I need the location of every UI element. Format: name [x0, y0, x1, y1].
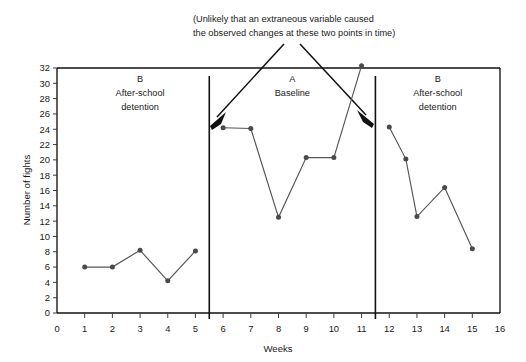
- data-point-marker: [359, 63, 364, 68]
- annotation-line-1: (Unlikely that an extraneous variable ca…: [193, 14, 374, 24]
- y-tick-label: 4: [45, 277, 50, 288]
- phase-labels: BAfter-schooldetentionABaselineBAfter-sc…: [116, 74, 463, 112]
- data-point-marker: [276, 215, 281, 220]
- x-tick-label: 2: [110, 323, 115, 334]
- data-point-marker: [82, 265, 87, 270]
- x-axis-ticks: 012345678910111213141516: [54, 313, 505, 334]
- data-point-marker: [304, 155, 309, 160]
- phase-name-line-2: detention: [121, 102, 159, 112]
- x-tick-label: 16: [495, 323, 505, 334]
- x-tick-label: 0: [54, 323, 59, 334]
- y-tick-label: 8: [45, 246, 50, 257]
- series-polyline: [389, 127, 472, 249]
- data-point-marker: [442, 185, 447, 190]
- phase-divider-lines: [209, 76, 375, 319]
- phase-name-line-2: detention: [419, 102, 457, 112]
- y-tick-label: 18: [40, 170, 50, 181]
- annotation-line-2: the observed changes at these two points…: [193, 28, 395, 38]
- y-tick-label: 0: [45, 307, 50, 318]
- x-axis-title: Weeks: [263, 343, 292, 354]
- x-tick-label: 10: [329, 323, 339, 334]
- y-tick-label: 12: [40, 216, 50, 227]
- x-tick-label: 11: [357, 323, 367, 334]
- y-tick-label: 30: [40, 78, 50, 89]
- data-point-marker: [165, 278, 170, 283]
- x-tick-label: 1: [82, 323, 87, 334]
- data-series: [221, 63, 364, 220]
- callout-arrow-left: [210, 44, 284, 130]
- x-tick-label: 9: [304, 323, 309, 334]
- x-tick-label: 15: [467, 323, 477, 334]
- phase-name-line-1: Baseline: [275, 88, 310, 98]
- y-tick-label: 24: [40, 124, 50, 135]
- data-point-marker: [387, 124, 392, 129]
- line-chart: (Unlikely that an extraneous variable ca…: [0, 0, 526, 362]
- figure-container: (Unlikely that an extraneous variable ca…: [0, 0, 526, 362]
- callout-arrow-right: [300, 44, 374, 128]
- data-series: [387, 124, 475, 251]
- data-point-marker: [403, 157, 408, 162]
- phase-name-line-1: After-school: [413, 88, 462, 98]
- x-tick-label: 13: [412, 323, 422, 334]
- x-tick-label: 4: [165, 323, 170, 334]
- x-tick-label: 7: [248, 323, 253, 334]
- y-tick-label: 22: [40, 139, 50, 150]
- y-axis-title: Number of fights: [21, 155, 32, 226]
- x-tick-label: 8: [276, 323, 281, 334]
- data-point-marker: [414, 214, 419, 219]
- y-tick-label: 16: [40, 185, 50, 196]
- data-point-marker: [110, 265, 115, 270]
- x-tick-label: 12: [384, 323, 394, 334]
- y-tick-label: 26: [40, 108, 50, 119]
- phase-name-line-1: After-school: [116, 88, 165, 98]
- x-tick-label: 5: [193, 323, 198, 334]
- phase-letter: B: [137, 74, 143, 84]
- x-tick-label: 14: [439, 323, 449, 334]
- y-tick-label: 32: [40, 62, 50, 73]
- y-tick-label: 10: [40, 231, 50, 242]
- y-tick-label: 14: [40, 200, 50, 211]
- y-tick-label: 2: [45, 292, 50, 303]
- phase-letter: A: [289, 74, 296, 84]
- data-point-marker: [331, 155, 336, 160]
- x-tick-label: 3: [137, 323, 142, 334]
- data-point-marker: [470, 246, 475, 251]
- x-tick-label: 6: [221, 323, 226, 334]
- y-tick-label: 6: [45, 261, 50, 272]
- y-tick-label: 20: [40, 154, 50, 165]
- annotation-callout: (Unlikely that an extraneous variable ca…: [193, 14, 395, 38]
- data-point-marker: [138, 248, 143, 253]
- phase-letter: B: [435, 74, 441, 84]
- data-point-marker: [248, 126, 253, 131]
- y-tick-label: 28: [40, 93, 50, 104]
- data-point-marker: [221, 125, 226, 130]
- series-polyline: [85, 250, 196, 281]
- data-point-marker: [193, 248, 198, 253]
- y-axis-ticks: 02468101214161820222426283032: [40, 62, 57, 318]
- data-series: [82, 248, 198, 284]
